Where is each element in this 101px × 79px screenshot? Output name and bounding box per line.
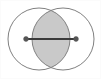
segment-endpoint-right-dot xyxy=(74,37,79,42)
segment-endpoint-left-dot xyxy=(24,37,29,42)
two-circles-diagram xyxy=(0,0,101,79)
figure-container xyxy=(0,0,101,79)
